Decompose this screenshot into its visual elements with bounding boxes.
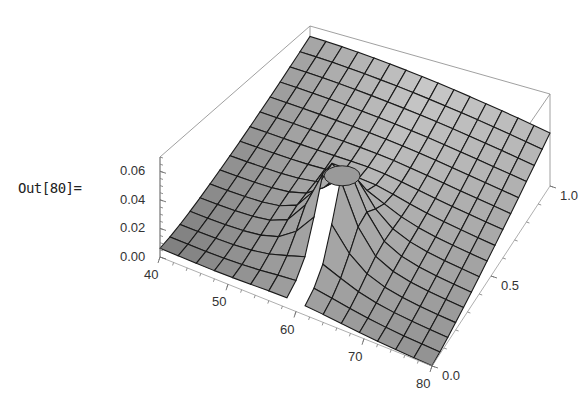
x-tick-label: 60 (280, 322, 294, 337)
x-tick-label: 50 (212, 294, 226, 309)
surface-mesh (160, 36, 550, 365)
z-tick-label: 0.06 (120, 163, 145, 178)
z-tick-label: 0.00 (120, 249, 145, 264)
x-tick-label: 70 (348, 349, 362, 364)
y-tick-label: 1.0 (560, 188, 578, 203)
z-tick-label: 0.04 (120, 192, 145, 207)
y-tick-label: 0.5 (501, 278, 519, 293)
y-tick-label: 0.0 (442, 368, 460, 383)
z-tick-label: 0.02 (120, 220, 145, 235)
surface-plot-3d: 40506070800.00.51.00.000.020.040.06 (0, 0, 583, 401)
x-tick-label: 40 (144, 267, 158, 282)
x-tick-label: 80 (416, 376, 430, 391)
